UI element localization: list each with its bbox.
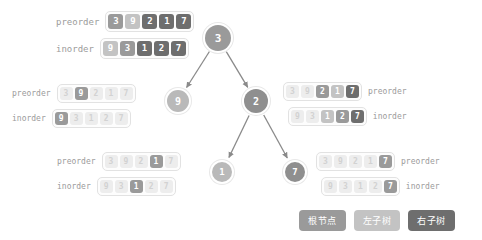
array-row-preorder: preorder 39217 [56, 11, 194, 32]
array-cell: 2 [90, 87, 103, 100]
array-label-preorder: preorder [368, 87, 407, 96]
legend-item-root-node[interactable]: 根节点 [299, 210, 346, 231]
array-cell: 3 [319, 155, 332, 168]
array-group-leaf-left: preorder 39217 inorder 93127 [57, 152, 181, 196]
tree-node-left[interactable]: 9 [167, 90, 189, 112]
tree-node-label: 9 [175, 96, 181, 107]
array-cell: 1 [331, 85, 344, 98]
array-cell: 2 [142, 14, 157, 29]
array-row-preorder: preorder 39217 [12, 84, 136, 103]
array-cells-preorder: 39217 [283, 82, 362, 101]
array-cells-preorder: 39217 [57, 84, 136, 103]
array-cells-preorder: 39217 [316, 152, 395, 171]
array-cells-inorder: 93127 [321, 177, 400, 196]
array-cell: 7 [379, 155, 392, 168]
array-cells-preorder: 39217 [105, 11, 194, 32]
array-cell: 2 [135, 155, 148, 168]
array-label-preorder: preorder [57, 157, 96, 166]
array-cell: 7 [165, 155, 178, 168]
array-cell: 2 [336, 110, 349, 123]
array-cell: 1 [105, 87, 118, 100]
array-cell: 3 [120, 41, 135, 56]
array-cell: 3 [286, 85, 299, 98]
array-cell: 9 [103, 41, 118, 56]
array-cell: 7 [351, 110, 364, 123]
array-cell: 9 [291, 110, 304, 123]
array-label-inorder: inorder [56, 44, 94, 54]
array-cell: 1 [364, 155, 377, 168]
array-row-inorder: inorder 93127 [316, 177, 440, 196]
array-label-inorder: inorder [12, 114, 46, 123]
array-row-preorder: preorder 39217 [57, 152, 181, 171]
array-cell: 3 [306, 110, 319, 123]
array-cell: 7 [384, 180, 397, 193]
array-cell: 3 [105, 155, 118, 168]
array-cell: 7 [176, 14, 191, 29]
array-cell: 9 [100, 180, 113, 193]
array-cell: 3 [60, 87, 73, 100]
array-cells-preorder: 39217 [102, 152, 181, 171]
array-cell: 3 [108, 14, 123, 29]
tree-node-root[interactable]: 3 [205, 25, 231, 51]
array-cell: 9 [120, 155, 133, 168]
array-cell: 9 [324, 180, 337, 193]
tree-node-right[interactable]: 2 [244, 89, 268, 113]
array-cell: 7 [120, 87, 133, 100]
tree-node-leaf-right[interactable]: 7 [285, 162, 305, 182]
array-label-preorder: preorder [56, 17, 99, 27]
array-cell: 7 [346, 85, 359, 98]
array-row-preorder: preorder 39217 [283, 82, 407, 101]
legend-item-right-subtree[interactable]: 右子树 [408, 210, 455, 231]
array-cell: 1 [137, 41, 152, 56]
tree-node-label: 3 [215, 32, 222, 45]
array-cell: 1 [159, 14, 174, 29]
array-cell: 9 [125, 14, 140, 29]
legend: 根节点 左子树 右子树 [299, 210, 455, 231]
legend-label: 右子树 [417, 214, 446, 227]
array-cell: 7 [171, 41, 186, 56]
array-group-right-subtree: preorder 39217 inorder 93127 [283, 82, 407, 126]
array-cells-inorder: 93127 [288, 107, 367, 126]
array-cell: 3 [115, 180, 128, 193]
array-cell: 1 [130, 180, 143, 193]
array-group-top: preorder 39217 inorder 93127 [56, 11, 194, 59]
array-label-inorder: inorder [406, 182, 440, 191]
array-cell: 1 [354, 180, 367, 193]
array-label-preorder: preorder [401, 157, 440, 166]
array-cell: 7 [160, 180, 173, 193]
tree-edge [226, 52, 247, 88]
tree-node-label: 2 [253, 96, 259, 107]
diagram-canvas: 3 9 2 1 7 preorder 39217 inorder 93127 p… [0, 0, 482, 240]
legend-label: 根节点 [308, 214, 337, 227]
tree-node-leaf-left[interactable]: 1 [212, 162, 232, 182]
array-cell: 2 [369, 180, 382, 193]
tree-node-label: 7 [292, 167, 297, 177]
array-label-inorder: inorder [373, 112, 407, 121]
array-cell: 1 [150, 155, 163, 168]
array-cell: 1 [321, 110, 334, 123]
array-cell: 2 [145, 180, 158, 193]
array-cell: 9 [75, 87, 88, 100]
array-cells-inorder: 93127 [100, 38, 189, 59]
array-cells-inorder: 93127 [52, 109, 131, 128]
array-label-inorder: inorder [57, 182, 91, 191]
array-cell: 7 [115, 112, 128, 125]
array-cell: 2 [349, 155, 362, 168]
array-cell: 9 [301, 85, 314, 98]
array-group-left-subtree: preorder 39217 inorder 93127 [12, 84, 136, 128]
array-row-inorder: inorder 93127 [12, 109, 136, 128]
array-cell: 2 [154, 41, 169, 56]
array-cell: 3 [70, 112, 83, 125]
array-cell: 2 [316, 85, 329, 98]
array-cell: 3 [339, 180, 352, 193]
array-row-preorder: preorder 39217 [316, 152, 440, 171]
legend-item-left-subtree[interactable]: 左子树 [354, 210, 401, 231]
tree-node-label: 1 [219, 167, 224, 177]
array-row-inorder: inorder 93127 [56, 38, 194, 59]
tree-edge [229, 115, 249, 157]
array-cell: 9 [334, 155, 347, 168]
array-row-inorder: inorder 93127 [283, 107, 407, 126]
array-cell: 2 [100, 112, 113, 125]
array-row-inorder: inorder 93127 [57, 177, 181, 196]
legend-label: 左子树 [363, 214, 392, 227]
